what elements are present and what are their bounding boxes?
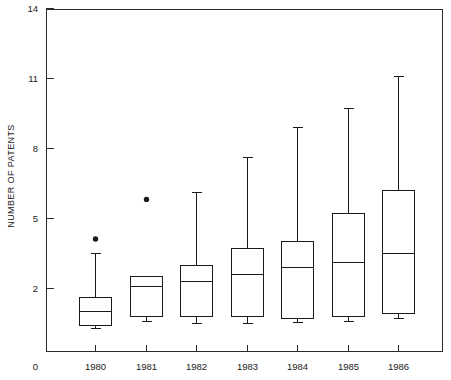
- box-iqr: [333, 214, 365, 317]
- box-plot-item: [181, 193, 213, 324]
- x-tick-label: 1985: [325, 362, 373, 372]
- x-tick-label: 1982: [173, 362, 221, 372]
- outlier-point: [93, 236, 98, 241]
- x-axis-ticks: [96, 345, 399, 352]
- y-tick-label: 11: [8, 74, 38, 84]
- y-tick-label: 2: [8, 284, 38, 294]
- outlier-point: [144, 197, 149, 202]
- box-iqr: [383, 191, 415, 314]
- box-iqr: [282, 242, 314, 319]
- box-iqr: [181, 266, 213, 317]
- x-tick-label: 1986: [375, 362, 423, 372]
- y-tick-label: 14: [8, 4, 38, 14]
- box-plot-item: [232, 158, 264, 324]
- x-tick-label: 1981: [123, 362, 171, 372]
- box-series: [80, 77, 415, 329]
- x-tick-label: 1980: [72, 362, 120, 372]
- box-plot-item: [131, 197, 163, 322]
- box-iqr: [232, 249, 264, 317]
- box-plot-item: [80, 236, 112, 328]
- box-plot-item: [282, 128, 314, 323]
- y-tick-label: 8: [8, 144, 38, 154]
- y-tick-label: 5: [8, 214, 38, 224]
- y-tick-label: 0: [8, 362, 38, 372]
- y-axis-ticks: [46, 9, 54, 289]
- plot-area: [0, 0, 451, 380]
- x-tick-label: 1983: [224, 362, 272, 372]
- box-plot-item: [383, 77, 415, 319]
- x-tick-label: 1984: [274, 362, 322, 372]
- box-plot-item: [333, 109, 365, 322]
- boxplot-chart: NUMBER OF PATENTS 02581114 1980198119821…: [0, 0, 451, 380]
- box-iqr: [131, 277, 163, 317]
